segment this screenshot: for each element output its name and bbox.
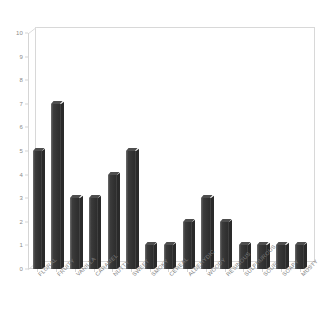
y-axis: 012345678910 (0, 0, 30, 329)
x-axis-label-slot: SWEET (122, 269, 141, 329)
x-axis-label-slot: CEREAL (159, 269, 178, 329)
x-axis-label-slot: ALDEHYDIC (178, 269, 197, 329)
bar-slot (220, 33, 229, 269)
bar-side-face (80, 196, 83, 269)
bar-slot (257, 33, 266, 269)
bar-side-face (211, 196, 214, 269)
bar-slot (126, 33, 135, 269)
plot-area (28, 33, 309, 269)
x-axis-label-slot: VANILLA (65, 269, 84, 329)
x-axis-label-slot: NUTTY (103, 269, 122, 329)
y-axis-tick-label: 10 (16, 30, 23, 36)
bar-slot (201, 33, 210, 269)
bar-slot (145, 33, 154, 269)
bar[interactable] (126, 151, 135, 269)
bar-slot (183, 33, 192, 269)
x-axis-labels: FLORALFRUITYVANILLACARAMELNUTTYSWEETSMOK… (28, 269, 309, 329)
y-axis-tick-label: 6 (19, 124, 23, 130)
y-axis-tick-label: 9 (19, 54, 23, 60)
x-axis-label-slot: FRUITY (47, 269, 66, 329)
x-axis-label-slot: RESINOUS (215, 269, 234, 329)
y-axis-tick-label: 3 (19, 195, 23, 201)
bar-slot (33, 33, 42, 269)
bar-slot (276, 33, 285, 269)
y-axis-tick-label: 0 (19, 266, 23, 272)
x-axis-label-slot: FLORAL (28, 269, 47, 329)
bar-side-face (136, 149, 139, 269)
bar-side-face (192, 219, 195, 269)
y-axis-tick-label: 8 (19, 77, 23, 83)
x-axis-label-slot: CARAMEL (84, 269, 103, 329)
bar-side-face (98, 196, 101, 269)
bar-slot (51, 33, 60, 269)
bar-slot (108, 33, 117, 269)
x-axis-label-slot: SOUR (253, 269, 272, 329)
bar[interactable] (51, 104, 60, 269)
bar-side-face (61, 101, 64, 269)
bars-layer (28, 33, 309, 269)
y-axis-tick-label: 2 (19, 219, 23, 225)
x-axis-label-slot: SMOKY (140, 269, 159, 329)
bar-side-face (229, 219, 232, 269)
bar-side-face (42, 149, 45, 269)
y-axis-tick-label: 1 (19, 242, 23, 248)
bar-chart: 012345678910 FLORALFRUITYVANILLACARAMELN… (0, 0, 324, 329)
bar-slot (239, 33, 248, 269)
bar[interactable] (33, 151, 42, 269)
bar-slot (70, 33, 79, 269)
bar-slot (295, 33, 304, 269)
y-axis-tick-label: 5 (19, 148, 23, 154)
x-axis-label-slot: WOODY (197, 269, 216, 329)
y-axis-tick-label: 7 (19, 101, 23, 107)
y-axis-tick-label: 4 (19, 172, 23, 178)
bar-slot (164, 33, 173, 269)
x-axis-label-slot: SOAPY (272, 269, 291, 329)
bar-slot (89, 33, 98, 269)
x-axis-label-slot: SULPHUROUS (234, 269, 253, 329)
x-axis-label-slot: MUSTY (290, 269, 309, 329)
